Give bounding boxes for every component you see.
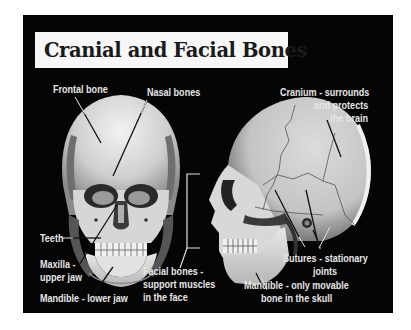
- illustration-panel: Cranial and Facial Bones Frontal bone Na…: [23, 15, 393, 313]
- label-sutures-1: Sutures - stationary: [283, 252, 368, 265]
- label-mandible-front: Mandible - lower jaw: [40, 292, 128, 305]
- label-mandible-side-2: bone in the skull: [261, 292, 332, 305]
- label-cranium-3: the brain: [330, 112, 368, 125]
- label-frontal-bone: Frontal bone: [53, 83, 108, 96]
- label-facial-bones-3: in the face: [143, 291, 188, 304]
- page-title: Cranial and Facial Bones: [35, 39, 307, 62]
- label-cranium-1: Cranium - surrounds: [280, 86, 369, 99]
- label-maxilla-2: upper jaw: [40, 271, 82, 284]
- label-maxilla-1: Maxilla -: [40, 258, 76, 271]
- title-box: Cranial and Facial Bones: [35, 32, 288, 68]
- label-mandible-side-1: Mandible - only movable: [244, 279, 349, 292]
- label-facial-bones-2: support muscles: [143, 278, 215, 291]
- label-cranium-2: and protects: [314, 99, 368, 112]
- label-facial-bones-1: Facial bones -: [143, 265, 203, 278]
- label-nasal-bones: Nasal bones: [147, 86, 200, 99]
- label-sutures-2: joints: [313, 265, 337, 278]
- label-teeth: Teeth: [40, 232, 63, 245]
